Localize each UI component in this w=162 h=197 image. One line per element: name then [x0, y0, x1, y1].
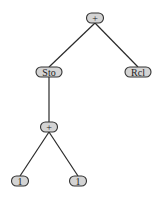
tree-node-n3: + — [41, 122, 58, 133]
node-label: 1 — [18, 176, 23, 187]
tree-edge — [95, 23, 138, 67]
node-label: + — [46, 122, 52, 133]
node-label: + — [92, 13, 98, 24]
tree-node-n1: Sto — [36, 67, 62, 78]
node-label: Sto — [42, 67, 55, 78]
expression-tree: +StoRcl+11 — [0, 0, 162, 197]
tree-node-n0: + — [87, 13, 104, 24]
tree-edge — [49, 23, 95, 67]
tree-edge — [20, 132, 49, 176]
tree-nodes: +StoRcl+11 — [12, 13, 152, 187]
tree-edge — [49, 132, 78, 176]
tree-node-n4: 1 — [12, 176, 29, 187]
tree-node-n2: Rcl — [125, 67, 151, 78]
tree-edges — [20, 23, 138, 176]
tree-node-n5: 1 — [70, 176, 87, 187]
node-label: Rcl — [131, 67, 145, 78]
node-label: 1 — [76, 176, 81, 187]
